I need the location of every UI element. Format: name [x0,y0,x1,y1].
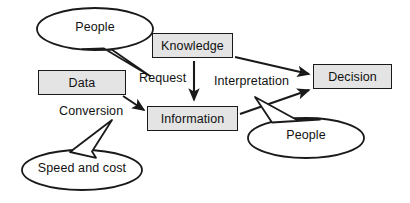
node-data[interactable]: Data [38,70,126,95]
arrow-knowledge-to-decision [235,57,309,74]
arrow-data-to-information [123,96,144,110]
node-decision-label: Decision [328,70,377,84]
node-knowledge-label: Knowledge [161,39,224,53]
callout-people-bottom-label: People [275,128,337,142]
edge-label-request: Request [139,71,186,85]
edge-label-conversion: Conversion [59,104,123,118]
callout-people-top-label: People [64,20,126,34]
node-information-label: Information [161,112,225,126]
node-knowledge[interactable]: Knowledge [152,33,233,58]
node-data-label: Data [69,76,96,90]
callout-speed-and-cost-label: Speed and cost [32,161,132,175]
node-decision[interactable]: Decision [313,64,392,89]
diagram-canvas: Knowledge Data Decision Information Requ… [0,0,410,203]
node-information[interactable]: Information [147,106,238,131]
edge-label-interpretation: Interpretation [214,74,289,88]
